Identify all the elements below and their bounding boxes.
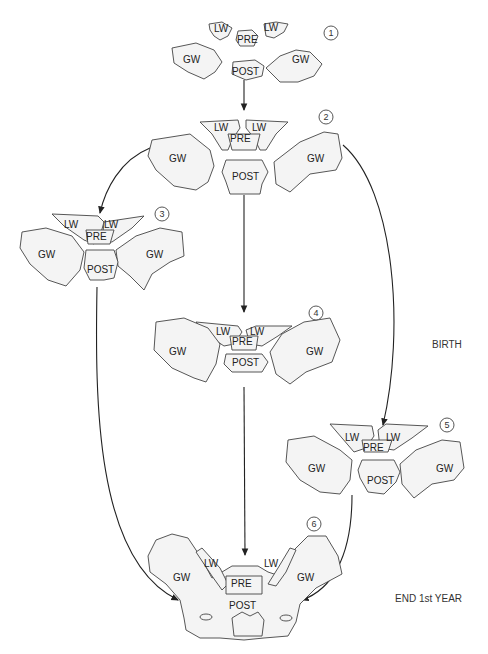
svg-text:5: 5 <box>444 420 449 430</box>
label-gw-left: GW <box>169 153 187 164</box>
label-lw-left: LW <box>345 432 360 443</box>
label-lw-right: LW <box>264 22 279 33</box>
svg-text:2: 2 <box>323 112 328 122</box>
stage-number-badge-1: 1 <box>324 26 338 40</box>
label-lw-left: LW <box>214 122 229 133</box>
label-lw-left: LW <box>214 23 229 34</box>
label-gw-left: GW <box>173 572 191 583</box>
label-post: POST <box>229 600 256 611</box>
label-post: POST <box>232 66 259 77</box>
svg-text:1: 1 <box>328 28 333 38</box>
foramen-left <box>200 614 212 620</box>
label-lw-left: LW <box>204 558 219 569</box>
stage-2: LW LW PRE GW GW POST 2 <box>148 110 342 194</box>
stage-number-badge-5: 5 <box>440 418 454 432</box>
label-lw-right: LW <box>264 558 279 569</box>
label-gw-left: GW <box>183 54 201 65</box>
label-pre: PRE <box>237 34 258 45</box>
stage-1: LW LW PRE GW GW POST 1 <box>172 22 338 82</box>
label-pre: PRE <box>363 442 384 453</box>
stage-number-badge-4: 4 <box>309 306 323 320</box>
stage-number-badge-3: 3 <box>155 207 169 221</box>
label-gw-right: GW <box>306 346 324 357</box>
label-lw-right: LW <box>104 219 119 230</box>
label-gw-left: GW <box>308 463 326 474</box>
label-gw-right: GW <box>146 249 164 260</box>
label-gw-left: GW <box>38 249 56 260</box>
label-post: POST <box>232 357 259 368</box>
stage-number-badge-6: 6 <box>307 517 321 531</box>
arrow-2-to-5 <box>343 145 394 425</box>
foramen-right <box>280 615 292 621</box>
label-gw-right: GW <box>436 463 454 474</box>
stage-5: LW LW PRE GW GW POST 5 <box>286 418 464 498</box>
stage-number-badge-2: 2 <box>319 110 333 124</box>
label-birth: BIRTH <box>432 339 462 350</box>
svg-text:4: 4 <box>313 308 318 318</box>
label-lw-right: LW <box>386 432 401 443</box>
label-post: POST <box>367 475 394 486</box>
label-gw-right: GW <box>297 572 315 583</box>
label-lw-right: LW <box>252 122 267 133</box>
sphenoid-development-diagram: LW LW PRE GW GW POST 1 LW LW PRE GW GW P… <box>0 0 488 654</box>
label-gw-left: GW <box>169 346 187 357</box>
arrow-2-to-3 <box>100 148 150 213</box>
label-lw-left: LW <box>216 326 231 337</box>
label-post: POST <box>87 264 114 275</box>
svg-text:6: 6 <box>311 519 316 529</box>
label-post: POST <box>232 171 259 182</box>
label-pre: PRE <box>231 578 252 589</box>
greater-wing-right <box>400 440 464 498</box>
stage-3: LW LW PRE GW GW POST 3 <box>20 207 184 290</box>
label-pre: PRE <box>86 231 107 242</box>
label-pre: PRE <box>232 336 253 347</box>
label-lw-left: LW <box>64 219 79 230</box>
arrow-4-to-6 <box>244 387 245 555</box>
label-gw-right: GW <box>292 54 310 65</box>
label-end-first-year: END 1st YEAR <box>395 593 462 604</box>
label-gw-right: GW <box>307 153 325 164</box>
stage-4: LW LW PRE GW GW POST 4 <box>154 306 340 384</box>
dorsum-sellae <box>232 612 264 636</box>
label-pre: PRE <box>230 133 251 144</box>
svg-text:3: 3 <box>159 209 164 219</box>
